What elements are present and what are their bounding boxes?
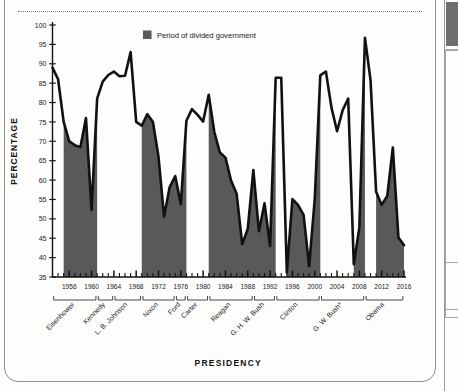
x-axis-year-label: 1984 bbox=[218, 283, 233, 290]
divided-government-band bbox=[64, 25, 97, 277]
right-divider-bottom bbox=[446, 309, 458, 310]
y-axis-tick-label: 100 bbox=[35, 22, 47, 29]
presidency-label: Carter bbox=[180, 300, 199, 319]
legend-label: Period of divided government bbox=[157, 31, 257, 40]
presidency-bracket bbox=[176, 296, 185, 300]
x-axis-year-label: 1976 bbox=[173, 283, 188, 290]
chart-legend: Period of divided government bbox=[143, 31, 257, 41]
x-axis-year-label: 1972 bbox=[151, 283, 166, 290]
x-axis-year-label: 1992 bbox=[263, 283, 278, 290]
presidency-bracket bbox=[322, 296, 364, 300]
page-root: 3540455055606570758085909510019561960196… bbox=[0, 0, 458, 391]
y-axis-tick-label: 35 bbox=[39, 274, 47, 281]
y-axis-tick-label: 95 bbox=[39, 41, 47, 48]
x-axis-year-label: 2008 bbox=[352, 283, 367, 290]
x-axis-year-label: 1968 bbox=[129, 283, 144, 290]
y-axis-tick-label: 55 bbox=[39, 196, 47, 203]
x-axis-year-label: 1964 bbox=[107, 283, 122, 290]
presidency-bracket bbox=[54, 296, 96, 300]
x-axis-year-label: 2000 bbox=[307, 283, 322, 290]
y-axis-tick-label: 60 bbox=[39, 177, 47, 184]
legend-swatch bbox=[143, 31, 152, 40]
y-axis-tick-label: 80 bbox=[39, 99, 47, 106]
right-divider-top bbox=[446, 49, 458, 50]
y-axis-tick-label: 90 bbox=[39, 60, 47, 67]
x-axis-year-label: 1956 bbox=[62, 283, 77, 290]
presidency-bracket bbox=[277, 296, 319, 300]
chart-svg: 3540455055606570758085909510019561960196… bbox=[0, 0, 458, 391]
x-axis-year-label: 2016 bbox=[397, 283, 412, 290]
presidency-bracket bbox=[255, 296, 275, 300]
chart-figure: 3540455055606570758085909510019561960196… bbox=[0, 0, 458, 391]
presidency-bracket bbox=[188, 296, 208, 300]
x-axis-year-label: 1980 bbox=[196, 283, 211, 290]
scrollbar-thumb[interactable] bbox=[446, 2, 458, 46]
presidency-bracket bbox=[143, 296, 174, 300]
x-axis-year-label: 1996 bbox=[285, 283, 300, 290]
presidency-label: G. H. W. Bush bbox=[229, 301, 265, 337]
x-axis-year-label: 2004 bbox=[330, 283, 345, 290]
right-divider-middle bbox=[446, 262, 458, 263]
presidency-label: G. W. Bush* bbox=[311, 301, 343, 333]
y-axis-tick-label: 40 bbox=[39, 254, 47, 261]
presidency-label: Clinton bbox=[278, 301, 298, 321]
presidency-bracket bbox=[210, 296, 252, 300]
presidency-bracket bbox=[366, 296, 403, 300]
presidency-label: Reagan bbox=[209, 301, 232, 324]
y-axis-tick-label: 70 bbox=[39, 138, 47, 145]
presidency-label: Nixon bbox=[142, 301, 160, 319]
presidency-label: Obama bbox=[364, 301, 385, 322]
x-axis-year-label: 1960 bbox=[84, 283, 99, 290]
presidency-label: Eisenhower bbox=[45, 300, 76, 331]
presidency-bracket bbox=[115, 296, 140, 300]
y-axis-tick-label: 50 bbox=[39, 215, 47, 222]
right-panel-frame bbox=[445, 50, 458, 318]
y-axis-title: PERCENTAGE bbox=[9, 117, 19, 184]
x-axis-year-label: 2012 bbox=[374, 283, 389, 290]
presidency-bracket bbox=[98, 296, 112, 300]
divided-government-band bbox=[142, 25, 187, 277]
y-axis-tick-label: 45 bbox=[39, 235, 47, 242]
y-axis-tick-label: 85 bbox=[39, 80, 47, 87]
y-axis-tick-label: 75 bbox=[39, 119, 47, 126]
y-axis-tick-label: 65 bbox=[39, 157, 47, 164]
x-axis-year-label: 1988 bbox=[240, 283, 255, 290]
x-axis-title: PRESIDENCY bbox=[195, 358, 262, 368]
divided-government-band bbox=[287, 25, 320, 277]
